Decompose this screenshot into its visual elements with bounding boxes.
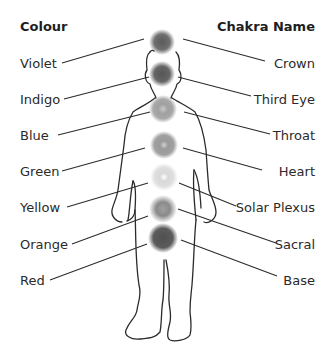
sacral-chakra-circle: [149, 195, 177, 223]
colour-label-red: Red: [20, 273, 45, 289]
crown-chakra-circle: [149, 29, 175, 55]
colour-label-indigo: Indigo: [20, 92, 60, 108]
chakra-circles: [148, 29, 178, 253]
colour-label-orange: Orange: [20, 237, 68, 253]
heart-chakra-circle: [150, 131, 178, 159]
chakra-label-sacral: Sacral: [275, 237, 315, 253]
chakra-label-heart: Heart: [279, 164, 315, 180]
chakra-diagram: Colour Chakra Name Violet Indigo Blue Gr…: [0, 0, 333, 364]
chakra-label-throat: Throat: [273, 128, 315, 144]
throat-chakra-circle: [149, 95, 177, 123]
base-chakra-circle: [148, 223, 178, 253]
solar-plexus-chakra-circle: [150, 163, 178, 191]
chakra-label-solar-plexus: Solar Plexus: [236, 200, 315, 216]
colour-label-green: Green: [20, 164, 59, 180]
chakra-label-third-eye: Third Eye: [254, 92, 315, 108]
third-eye-chakra-circle: [149, 61, 175, 87]
colour-label-yellow: Yellow: [20, 200, 60, 216]
colour-label-violet: Violet: [20, 56, 57, 72]
chakra-label-base: Base: [283, 273, 315, 289]
colour-column-header: Colour: [20, 19, 68, 35]
chakra-label-crown: Crown: [274, 56, 315, 72]
chakra-name-column-header: Chakra Name: [217, 19, 315, 35]
body-outline-and-leaders: [0, 0, 333, 364]
colour-label-blue: Blue: [20, 128, 49, 144]
